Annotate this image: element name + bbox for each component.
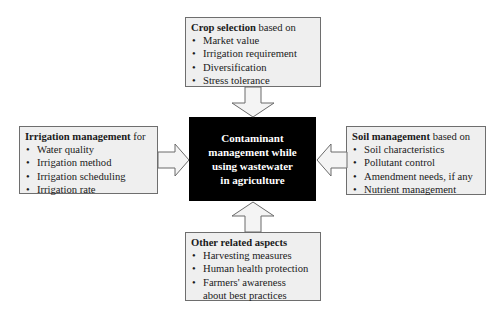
crop-selection-title: Crop selection based on xyxy=(191,21,315,34)
irrigation-management-list: Water quality Irrigation method Irrigati… xyxy=(25,143,152,196)
title-rest: based on xyxy=(256,22,296,33)
irrigation-management-title: Irrigation management for xyxy=(25,130,152,143)
list-item: Irrigation scheduling xyxy=(25,170,152,183)
arrow-up-icon xyxy=(231,201,277,233)
list-item: Soil characteristics xyxy=(352,143,480,156)
list-item: Nutrient management xyxy=(352,183,480,196)
crop-selection-box: Crop selection based on Market value Irr… xyxy=(185,17,321,87)
central-concept-box: Contaminant management while using waste… xyxy=(189,117,316,201)
other-aspects-list: Harvesting measures Human health protect… xyxy=(191,249,315,302)
list-item: Irrigation rate xyxy=(25,183,152,196)
list-item: Amendment needs, if any xyxy=(352,170,480,183)
irrigation-management-box: Irrigation management for Water quality … xyxy=(19,126,158,194)
list-item: Water quality xyxy=(25,143,152,156)
center-line: in agriculture xyxy=(208,173,296,187)
arrow-right-icon xyxy=(158,143,190,177)
arrow-down-icon xyxy=(230,87,276,118)
title-bold: Soil management xyxy=(352,131,430,142)
list-item: Harvesting measures xyxy=(191,249,315,262)
crop-selection-list: Market value Irrigation requirement Dive… xyxy=(191,34,315,87)
central-concept-text: Contaminant management while using waste… xyxy=(208,131,296,187)
other-aspects-title: Other related aspects xyxy=(191,236,315,249)
title-bold: Irrigation management xyxy=(25,131,131,142)
title-rest: for xyxy=(131,131,146,142)
title-bold: Crop selection xyxy=(191,22,256,33)
list-item: Stress tolerance xyxy=(191,74,315,87)
center-line: using wastewater xyxy=(208,159,296,173)
center-line: Contaminant xyxy=(208,131,296,145)
soil-management-box: Soil management based on Soil characteri… xyxy=(346,126,486,195)
list-item: Pollutant control xyxy=(352,156,480,169)
list-item: Irrigation requirement xyxy=(191,47,315,60)
soil-management-title: Soil management based on xyxy=(352,130,480,143)
list-item: Market value xyxy=(191,34,315,47)
list-item: Farmers' awareness xyxy=(191,276,315,289)
list-item: Diversification xyxy=(191,61,315,74)
title-bold: Other related aspects xyxy=(191,237,287,248)
soil-management-list: Soil characteristics Pollutant control A… xyxy=(352,143,480,196)
center-line: management while xyxy=(208,145,296,159)
other-aspects-box: Other related aspects Harvesting measure… xyxy=(185,232,321,301)
title-rest: based on xyxy=(430,131,470,142)
list-item: about best practices xyxy=(191,289,315,302)
list-item: Irrigation method xyxy=(25,156,152,169)
arrow-left-icon xyxy=(316,143,347,177)
list-item: Human health protection xyxy=(191,262,315,275)
